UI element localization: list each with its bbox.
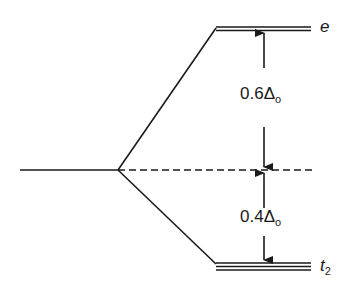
connector-up bbox=[118, 28, 216, 170]
lower-gap-sub: o bbox=[275, 216, 281, 228]
lower-gap-label: 0.4Δo bbox=[240, 208, 281, 225]
e-label: e bbox=[320, 18, 329, 35]
upper-gap-label: 0.6Δo bbox=[240, 85, 281, 102]
delta-symbol: Δ bbox=[264, 84, 275, 103]
t2-label: t2 bbox=[320, 257, 331, 274]
upper-gap-sub: o bbox=[275, 93, 281, 105]
splitting-diagram bbox=[0, 0, 356, 289]
connector-down bbox=[118, 170, 216, 264]
lower-gap-coef: 0.4 bbox=[240, 207, 264, 226]
upper-gap-coef: 0.6 bbox=[240, 84, 264, 103]
t2-level bbox=[216, 263, 311, 270]
t2-label-sub: 2 bbox=[325, 265, 331, 277]
e-level bbox=[216, 27, 311, 31]
delta-symbol: Δ bbox=[264, 207, 275, 226]
